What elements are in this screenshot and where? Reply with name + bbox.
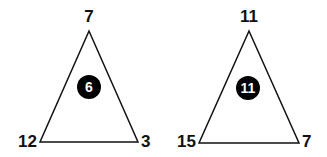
triangle-1-top-value: 7	[84, 7, 93, 26]
triangle-2-top-value: 11	[240, 7, 258, 26]
triangle-1-left-value: 12	[18, 132, 37, 151]
triangle-1-right-value: 3	[141, 132, 150, 151]
triangle-1-center-value: 6	[85, 79, 93, 95]
triangle-2-right-value: 7	[302, 132, 311, 151]
triangle-2-center-value: 11	[241, 80, 256, 96]
triangle-2-left-value: 15	[177, 132, 196, 151]
triangle-2: 11 11 15 7	[177, 7, 311, 151]
triangle-1: 6 7 12 3	[18, 7, 150, 151]
triangle-puzzle: 6 7 12 3 11 11 15 7	[0, 0, 327, 157]
